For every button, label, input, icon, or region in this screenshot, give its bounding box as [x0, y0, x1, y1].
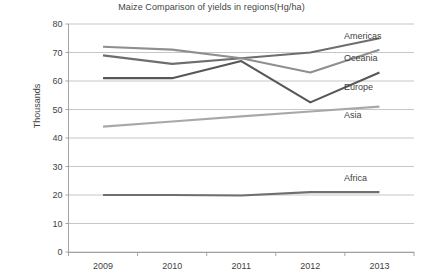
y-tick-label: 50 — [52, 105, 62, 115]
series-label-europe: Europe — [344, 82, 373, 92]
series-label-africa: Africa — [344, 173, 367, 183]
series-line-europe — [103, 61, 379, 102]
x-tick-label: 2013 — [369, 261, 389, 271]
x-tick-label: 2011 — [232, 261, 251, 271]
y-tick-label: 20 — [52, 190, 62, 200]
x-axis-tick-labels: 20092010201120122013 — [93, 261, 389, 271]
line-chart: Maize Comparison of yields in regions(Hg… — [0, 0, 423, 280]
plot-area: 01020304050607080 20092010201120122013 A… — [0, 0, 423, 280]
y-tick-label: 10 — [52, 219, 62, 229]
y-tick-label: 60 — [52, 76, 62, 86]
y-tick-label: 0 — [57, 247, 62, 257]
series-label-americas: Americas — [344, 31, 382, 41]
y-tick-label: 70 — [52, 48, 62, 58]
x-tick-label: 2012 — [300, 261, 320, 271]
x-tick-label: 2010 — [162, 261, 182, 271]
y-tick-label: 30 — [52, 162, 62, 172]
data-series — [103, 38, 379, 195]
series-label-oceania: Oceania — [344, 53, 378, 63]
y-tick-label: 40 — [52, 133, 62, 143]
y-tick-label: 80 — [52, 19, 62, 29]
x-tick-label: 2009 — [93, 261, 113, 271]
series-label-asia: Asia — [344, 110, 362, 120]
y-axis-tick-labels: 01020304050607080 — [52, 19, 62, 257]
